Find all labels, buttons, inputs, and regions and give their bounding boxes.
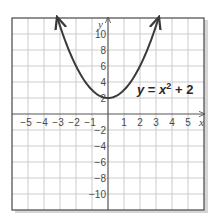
x-tick-label: −3	[52, 117, 64, 128]
equation-label: y = x2 + 2	[136, 81, 193, 97]
x-axis-label: x	[198, 116, 204, 128]
x-tick-label: 2	[137, 117, 143, 128]
y-tick-label: −8	[95, 173, 107, 184]
y-tick-label: −4	[95, 141, 107, 152]
x-tick-label: 5	[185, 117, 191, 128]
y-axis-label: y	[97, 18, 103, 30]
x-tick-label: −4	[36, 117, 48, 128]
x-tick-label: 4	[169, 117, 175, 128]
y-tick-label: 10	[95, 29, 107, 40]
y-tick-label: 8	[100, 45, 106, 56]
parabola-chart: −5−4−3−2−112345 108642−2−4−6−8−10 x y y …	[0, 0, 220, 222]
x-tick-label: 1	[121, 117, 127, 128]
y-tick-label: −2	[95, 125, 107, 136]
x-tick-label: 3	[153, 117, 159, 128]
y-tick-label: 6	[100, 61, 106, 72]
x-tick-label: −5	[20, 117, 32, 128]
y-tick-label: 4	[100, 77, 106, 88]
y-tick-label: −6	[95, 157, 107, 168]
x-tick-label: −2	[68, 117, 80, 128]
y-tick-label: −10	[89, 189, 106, 200]
